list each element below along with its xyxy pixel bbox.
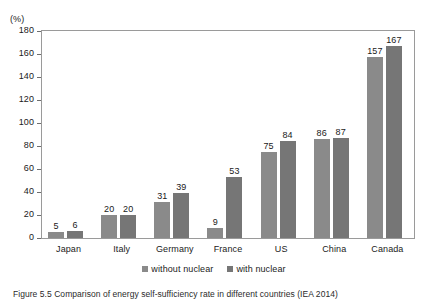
x-axis-category-label: France [201, 244, 254, 255]
bar-value-label: 167 [386, 35, 401, 45]
bar-group: 8687 [308, 31, 361, 238]
bar-group: 953 [201, 31, 254, 238]
legend-label: with nuclear [236, 264, 285, 274]
bar[interactable]: 9 [207, 228, 223, 238]
bar-value-label: 86 [317, 128, 327, 138]
legend-item[interactable]: without nuclear [142, 264, 213, 274]
bar-group: 7584 [255, 31, 308, 238]
y-axis-tick-label: 140 [19, 71, 34, 81]
bar-value-label: 157 [367, 46, 382, 56]
y-axis-tick-label: 60 [24, 163, 34, 173]
bar-value-label: 5 [53, 221, 58, 231]
bar-value-label: 84 [282, 130, 292, 140]
y-axis-tick-label: 20 [24, 209, 34, 219]
bar-value-label: 6 [72, 220, 77, 230]
bar-value-label: 39 [176, 182, 186, 192]
y-axis-tick-label: 80 [24, 140, 34, 150]
y-axis-tick-label: 180 [19, 25, 34, 35]
y-axis-tick-label: 0 [29, 232, 34, 242]
legend-label: without nuclear [151, 264, 213, 274]
y-axis-tick-label: 100 [19, 117, 34, 127]
bar-value-label: 9 [213, 217, 218, 227]
bar-group: 3139 [148, 31, 201, 238]
bar[interactable]: 87 [333, 138, 349, 238]
bar[interactable]: 167 [386, 46, 402, 238]
bar-group: 157167 [361, 31, 414, 238]
y-axis-tick-label: 160 [19, 48, 34, 58]
legend-item[interactable]: with nuclear [227, 264, 285, 274]
bar-group: 56 [42, 31, 95, 238]
figure-caption: Figure 5.5 Comparison of energy self-suf… [13, 289, 423, 300]
bars-layer: 562020313995375848687157167 [42, 31, 414, 238]
bar-group: 2020 [95, 31, 148, 238]
bar[interactable]: 5 [48, 232, 64, 238]
legend-swatch-icon [227, 266, 233, 272]
x-axis-category-labels: JapanItalyGermanyFranceUSChinaCanada [42, 244, 414, 256]
bar[interactable]: 157 [367, 57, 383, 238]
bar[interactable]: 53 [226, 177, 242, 238]
bar[interactable]: 20 [101, 215, 117, 238]
y-axis-tick-label: 120 [19, 94, 34, 104]
bar-value-label: 87 [336, 127, 346, 137]
bar[interactable]: 20 [120, 215, 136, 238]
bar[interactable]: 75 [261, 152, 277, 238]
bar[interactable]: 6 [67, 231, 83, 238]
x-axis-category-label: Japan [42, 244, 95, 255]
legend-swatch-icon [142, 266, 148, 272]
x-axis-category-label: US [255, 244, 308, 255]
bar-value-label: 20 [123, 204, 133, 214]
bar[interactable]: 31 [154, 202, 170, 238]
bar[interactable]: 84 [280, 141, 296, 238]
bar-value-label: 53 [229, 166, 239, 176]
bar[interactable]: 86 [314, 139, 330, 238]
x-axis-category-label: Italy [95, 244, 148, 255]
bar-value-label: 31 [157, 191, 167, 201]
x-axis-category-label: China [308, 244, 361, 255]
bar[interactable]: 39 [173, 193, 189, 238]
bar-value-label: 20 [104, 204, 114, 214]
x-axis-category-label: Canada [361, 244, 414, 255]
bar-value-label: 75 [263, 141, 273, 151]
y-axis-tick-label: 40 [24, 186, 34, 196]
x-axis-category-label: Germany [148, 244, 201, 255]
chart-legend: without nuclearwith nuclear [0, 264, 428, 274]
y-axis-unit-label: (%) [10, 14, 24, 24]
